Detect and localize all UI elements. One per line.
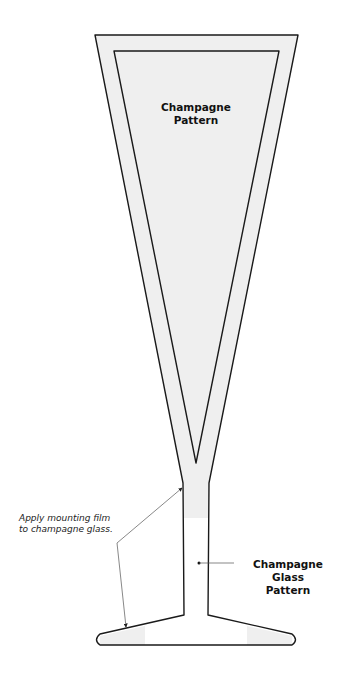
note-line2: to champagne glass. [19, 524, 119, 535]
arrow-to-stem [117, 488, 182, 543]
arrow-to-foot [117, 543, 126, 627]
glass-pattern-label: Champagne Glass Pattern [236, 558, 340, 597]
glass-pattern-label-line2: Pattern [236, 584, 340, 597]
mounting-film-note: Apply mounting film to champagne glass. [19, 513, 119, 535]
cup-pattern-label-line1: Champagne [146, 101, 246, 114]
cup-pattern-label-line2: Pattern [146, 114, 246, 127]
note-line1: Apply mounting film [19, 513, 119, 524]
cup-pattern-label: Champagne Pattern [146, 101, 246, 127]
glass-pattern-label-line1: Champagne Glass [236, 558, 340, 584]
